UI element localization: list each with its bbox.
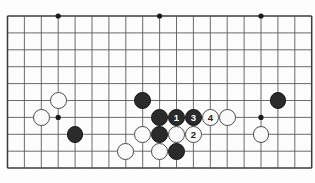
white-stone-move-4: 4 [202, 109, 219, 126]
black-stone-left [67, 126, 84, 143]
white-stone-bottom-mid [151, 143, 168, 160]
star-point-mid-right [258, 115, 263, 120]
white-stone-left-lower [33, 109, 50, 126]
black-stone-center-top [134, 92, 151, 109]
white-stone-lower-mid [168, 126, 185, 143]
white-stone-right-of-4 [219, 109, 236, 126]
go-board-diagram: 1342 [0, 0, 315, 183]
star-point-top-center [157, 13, 162, 18]
black-stone-move-3: 3 [185, 109, 202, 126]
stone-move-number: 2 [191, 129, 196, 139]
star-point-top-right [258, 13, 263, 18]
black-stone-right [270, 92, 287, 109]
star-point-mid-left [56, 115, 61, 120]
white-stone-lower-left [134, 126, 151, 143]
black-stone-bottom [168, 143, 185, 160]
white-stone-left-upper [50, 92, 67, 109]
stone-move-number: 4 [208, 112, 213, 122]
white-stone-bottom-left [117, 143, 134, 160]
black-stone-lower-center [151, 126, 168, 143]
black-stone-move-1: 1 [168, 109, 185, 126]
stone-move-number: 3 [191, 112, 196, 122]
white-stone-right [253, 126, 270, 143]
black-stone-center-left [151, 109, 168, 126]
star-point-top-left [56, 13, 61, 18]
stone-move-number: 1 [174, 112, 179, 122]
white-stone-move-2: 2 [185, 126, 202, 143]
